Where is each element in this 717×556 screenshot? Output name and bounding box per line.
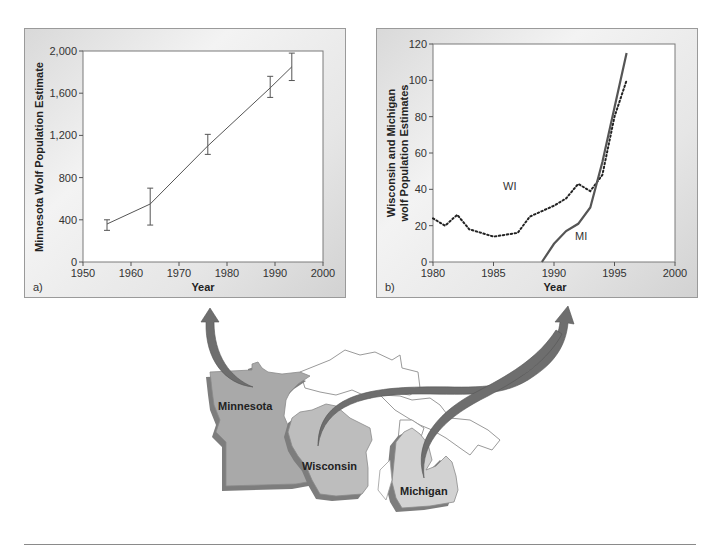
x-tick-label: 2000 [663,267,687,279]
series-label-mi: MI [575,230,587,242]
y-axis-title-b-line1: Wisconsin and Michigan [385,89,397,218]
x-tick-label: 1950 [71,267,95,279]
x-tick-label: 1995 [602,267,626,279]
y-tick-label: 20 [415,220,427,232]
x-tick-label: 1990 [263,267,287,279]
y-tick-label: 1,200 [49,129,77,141]
x-tick-label: 1970 [167,267,191,279]
state-label-minnesota: Minnesota [218,400,273,412]
y-tick-label: 100 [409,74,427,86]
y-tick-label: 2,000 [49,45,77,57]
y-axis-title-b-line2: wolf Population Estimates [398,85,410,223]
x-axis-title-a: Year [191,281,215,293]
x-tick-label: 1990 [542,267,566,279]
y-tick-label: 60 [415,147,427,159]
chart-panel-a: 04008001,2001,6002,000195019601970198019… [24,28,346,298]
x-tick-label: 1980 [421,267,445,279]
great-lakes-map: Minnesota Wisconsin Michigan [0,298,717,528]
y-tick-label: 120 [409,38,427,50]
series-label-wi: WI [503,180,516,192]
state-label-wisconsin: Wisconsin [302,460,357,472]
x-axis-title-b: Year [543,281,567,293]
panel-label-b: b) [385,281,395,293]
chart-b-svg: 02040608010012019801985199019952000 WI M… [377,29,699,299]
y-axis-title-a: Minnesota Wolf Population Estimate [33,62,45,252]
plot-area-a [83,51,323,262]
chart-panel-b: 02040608010012019801985199019952000 WI M… [376,28,698,298]
y-tick-label: 400 [59,214,77,226]
x-tick-label: 1980 [215,267,239,279]
y-tick-label: 80 [415,111,427,123]
chart-a-svg: 04008001,2001,6002,000195019601970198019… [25,29,347,299]
y-tick-label: 800 [59,172,77,184]
state-michigan: Michigan [378,428,458,512]
y-tick-label: 1,600 [49,87,77,99]
panel-label-a: a) [33,281,43,293]
x-tick-label: 1985 [481,267,505,279]
x-tick-label: 2000 [311,267,335,279]
arrow-michigan-to-chart-b [421,330,562,478]
bottom-divider [24,544,696,545]
state-label-michigan: Michigan [400,485,448,497]
y-tick-label: 40 [415,183,427,195]
x-tick-label: 1960 [119,267,143,279]
